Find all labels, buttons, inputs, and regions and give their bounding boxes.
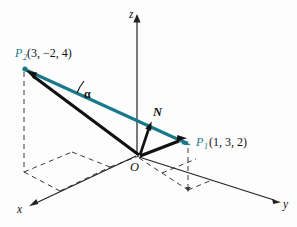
diagram-labels: z y x O N α P 2 (3, −2, 4) P 1 (1, 3, 2) — [14, 8, 289, 215]
origin-label: O — [130, 160, 139, 174]
p2-label-coords: (3, −2, 4) — [27, 46, 72, 60]
p1-label-group: P 1 (1, 3, 2) — [195, 135, 247, 151]
p1-label-coords: (1, 3, 2) — [209, 135, 247, 149]
position-vectors — [26, 71, 187, 157]
p1-base-corner-dashed — [162, 173, 188, 190]
z-axis-label: z — [128, 8, 134, 20]
x-axis-line — [36, 156, 136, 203]
p2-base-bottom-dashed — [60, 167, 110, 191]
y-axis-label: y — [282, 198, 289, 211]
p2-base-top-dashed — [72, 152, 110, 167]
figure-container: z y x O N α P 2 (3, −2, 4) P 1 (1, 3, 2) — [0, 0, 297, 227]
p1-point-marker — [184, 141, 188, 145]
vector-o-to-p1 — [140, 141, 179, 156]
p1-label-name: P — [195, 135, 204, 149]
alpha-angle-label: α — [84, 87, 91, 101]
p2-label-group: P 2 (3, −2, 4) — [14, 46, 72, 62]
vector-o-to-n — [140, 128, 149, 155]
z-axis-arrowhead — [133, 14, 140, 22]
x-axis-arrowhead — [29, 199, 38, 206]
y-axis-line — [139, 157, 274, 200]
alpha-arc — [77, 81, 84, 93]
p2-label-name: P — [14, 46, 23, 60]
segment-p2-p1 — [22, 66, 191, 145]
p1-base-bottom-dashed — [188, 180, 212, 190]
p1-label-subscript: 1 — [204, 142, 208, 151]
normal-vector-label: N — [152, 105, 163, 119]
angle-alpha-group — [77, 81, 84, 93]
x-axis-label: x — [16, 203, 23, 215]
y-axis-arrowhead — [272, 199, 281, 204]
p2-base-left-dashed — [24, 152, 72, 172]
vector-diagram-svg: z y x O N α P 2 (3, −2, 4) P 1 (1, 3, 2) — [0, 0, 297, 227]
p2-base-edge-dashed — [24, 172, 60, 191]
